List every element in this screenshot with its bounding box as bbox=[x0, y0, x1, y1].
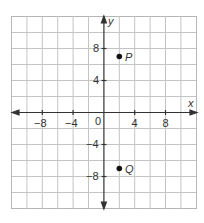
y-tick-label: −8 bbox=[86, 170, 99, 182]
x-tick-label: −8 bbox=[34, 117, 47, 129]
x-tick-label: 4 bbox=[132, 117, 138, 129]
origin-label: 0 bbox=[95, 115, 101, 127]
point-p bbox=[117, 54, 123, 60]
coordinate-plane: y x −8 −4 0 4 8 8 4 −4 −8 P Q bbox=[0, 0, 204, 223]
point-p-label: P bbox=[125, 51, 133, 63]
point-q-label: Q bbox=[125, 163, 134, 175]
x-tick-label: 8 bbox=[163, 117, 169, 129]
y-tick-label: 8 bbox=[93, 42, 99, 54]
x-tick-label: −4 bbox=[65, 117, 78, 129]
y-tick-label: 4 bbox=[93, 74, 99, 86]
point-q bbox=[117, 166, 123, 172]
x-axis-label: x bbox=[187, 97, 194, 109]
y-tick-label: −4 bbox=[86, 138, 99, 150]
